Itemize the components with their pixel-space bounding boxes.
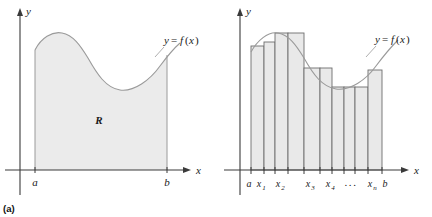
tick-label-x4: x 4 bbox=[325, 178, 335, 192]
riemann-rect bbox=[264, 42, 275, 170]
tick-label-a: a bbox=[32, 176, 38, 188]
tick-label-x4-sub: 4 bbox=[331, 184, 335, 192]
curve-label-a-close: ) bbox=[195, 34, 199, 47]
riemann-rectangles bbox=[251, 33, 382, 170]
tick-label-x2: x 2 bbox=[275, 178, 285, 192]
curve-label-leader-a bbox=[155, 47, 164, 57]
curve-label-a-x: x bbox=[188, 34, 194, 46]
region-shading-a bbox=[35, 33, 167, 170]
tick-label-x2-base: x bbox=[275, 178, 281, 189]
riemann-rect bbox=[332, 87, 344, 170]
tick-label-a: a bbox=[247, 178, 252, 189]
riemann-rect bbox=[368, 70, 382, 170]
x-axis-arrow-a bbox=[183, 167, 191, 173]
curve-label-b-close: ) bbox=[406, 33, 410, 46]
x-axis-label-a: x bbox=[195, 164, 201, 176]
riemann-rect bbox=[344, 87, 355, 170]
riemann-rect bbox=[355, 87, 368, 170]
panel-a-caption: (a) bbox=[3, 203, 15, 214]
panel-b: y x a x 1 x 2 x 3 x 4 bbox=[216, 0, 432, 217]
tick-label-x2-sub: 2 bbox=[281, 184, 285, 192]
y-axis-arrow-b bbox=[237, 8, 243, 16]
tick-label-x4-base: x bbox=[325, 178, 331, 189]
tick-label-xn: x n bbox=[367, 178, 377, 192]
curve-label-a-y: y bbox=[163, 34, 169, 46]
curve-label-a-equals: = bbox=[171, 34, 177, 46]
tick-label-xn-base: x bbox=[367, 178, 373, 189]
x-axis-arrow-b bbox=[401, 167, 409, 173]
riemann-rect bbox=[304, 68, 320, 170]
curve-label-b-x: x bbox=[399, 33, 405, 45]
tick-label-x3-sub: 3 bbox=[310, 184, 315, 192]
riemann-rect bbox=[320, 68, 332, 170]
panel-a: y x a b R y = f ( x ) (a) bbox=[0, 0, 216, 217]
tick-label-xn-sub: n bbox=[373, 184, 377, 192]
y-axis-label-b: y bbox=[245, 5, 251, 17]
curve-label-b: y = f ( x ) bbox=[374, 33, 410, 46]
curve-label-b-y: y bbox=[374, 33, 380, 45]
curve-label-leader-b bbox=[366, 46, 376, 57]
panel-a-plot: y x a b R y = f ( x ) bbox=[0, 0, 216, 217]
tick-label-x1-sub: 1 bbox=[262, 184, 266, 192]
tick-label-x1: x 1 bbox=[256, 178, 266, 192]
y-axis-label-a: y bbox=[25, 5, 31, 17]
x-tick-labels: a x 1 x 2 x 3 x 4 ... bbox=[247, 176, 388, 192]
tick-label-b: b bbox=[164, 176, 170, 188]
panel-b-plot: y x a x 1 x 2 x 3 x 4 bbox=[216, 0, 432, 217]
tick-label-x1-base: x bbox=[256, 178, 262, 189]
curve-label-a: y = f ( x ) bbox=[163, 34, 199, 47]
tick-label-b: b bbox=[383, 178, 388, 189]
tick-label-ellipsis: ... bbox=[344, 176, 357, 188]
tick-label-x3-base: x bbox=[305, 178, 311, 189]
region-label-R: R bbox=[94, 114, 102, 126]
riemann-rect bbox=[251, 46, 264, 170]
curve-label-b-equals: = bbox=[382, 33, 388, 45]
riemann-rect bbox=[275, 33, 288, 170]
figure-container: y x a b R y = f ( x ) (a) bbox=[0, 0, 432, 217]
x-axis-label-b: x bbox=[413, 164, 419, 176]
y-axis-arrow-a bbox=[17, 8, 23, 16]
tick-label-x3: x 3 bbox=[305, 178, 315, 192]
